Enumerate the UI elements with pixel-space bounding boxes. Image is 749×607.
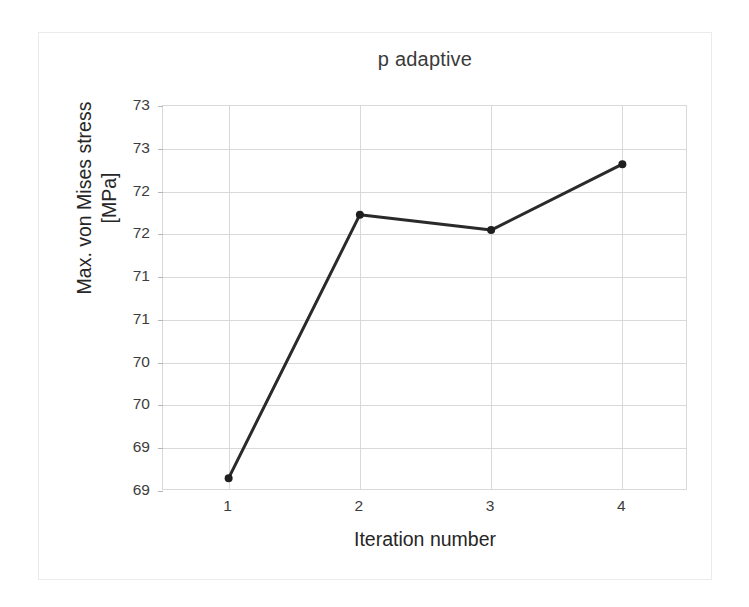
y-tick-label: 71 — [106, 267, 150, 285]
y-tick-label: 72 — [106, 182, 150, 200]
y-tick-label: 70 — [106, 395, 150, 413]
chart-title: p adaptive — [162, 48, 688, 71]
y-tick-label: 73 — [106, 96, 150, 114]
data-point-marker — [487, 226, 495, 234]
data-point-marker — [225, 474, 233, 482]
series-polyline — [229, 164, 623, 478]
x-tick-label: 1 — [208, 497, 248, 515]
data-series-line — [163, 106, 688, 491]
y-tick-label: 71 — [106, 310, 150, 328]
y-tick-mark — [158, 491, 163, 492]
x-axis-title: Iteration number — [162, 528, 688, 551]
data-point-marker — [356, 211, 364, 219]
series-markers — [225, 160, 627, 482]
chart-figure: p adaptive Max. von Mises stress [MPa] I… — [0, 0, 749, 607]
y-tick-label: 70 — [106, 353, 150, 371]
y-tick-label: 69 — [106, 438, 150, 456]
x-tick-label: 2 — [339, 497, 379, 515]
y-tick-label: 73 — [106, 139, 150, 157]
x-tick-label: 4 — [601, 497, 641, 515]
data-point-marker — [618, 160, 626, 168]
y-tick-label: 69 — [106, 481, 150, 499]
plot-area — [162, 105, 687, 490]
y-tick-label: 72 — [106, 224, 150, 242]
x-tick-label: 3 — [470, 497, 510, 515]
